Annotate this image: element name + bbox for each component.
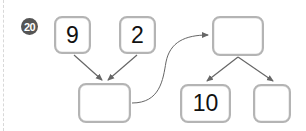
number-box-9: 9 (54, 16, 91, 54)
answer-box-bottom-right[interactable] (253, 84, 291, 123)
number-box-2: 2 (119, 16, 156, 54)
answer-box-top-right[interactable] (212, 16, 264, 56)
arrow-top-to-blank (238, 57, 273, 81)
arrow-2-to-result (108, 55, 137, 80)
answer-box-sum[interactable] (78, 83, 131, 123)
arrow-9-to-result (74, 55, 102, 80)
arrow-top-to-10 (207, 57, 238, 81)
number-box-10: 10 (180, 84, 231, 123)
